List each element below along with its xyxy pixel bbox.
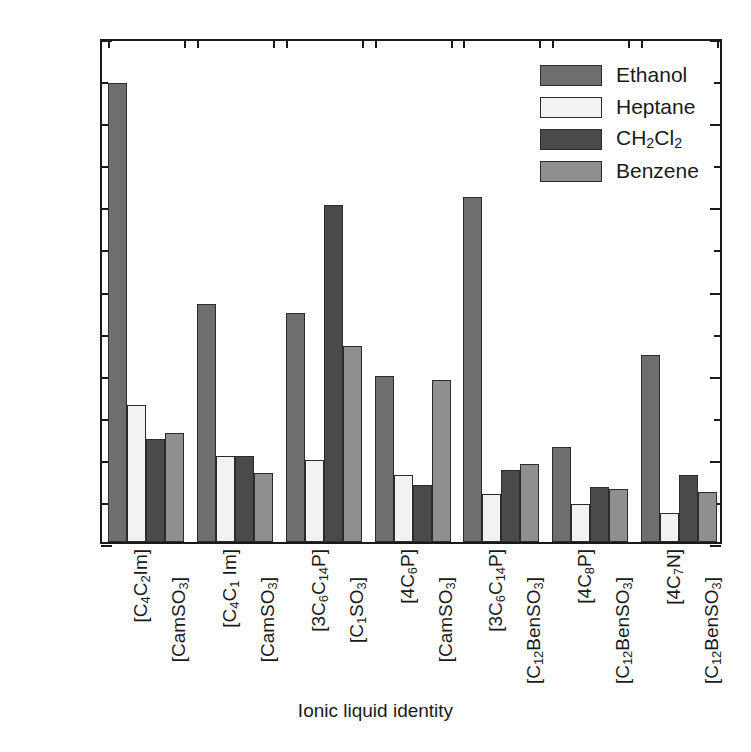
bar-chart-figure: 0.00.40.81.21.62.02.4 EthanolHeptaneCH2C… bbox=[0, 0, 751, 752]
bar bbox=[609, 489, 628, 542]
y-axis-tick-minor-right bbox=[714, 250, 721, 252]
bar bbox=[146, 439, 165, 542]
legend-label: Heptane bbox=[616, 95, 695, 119]
legend-swatch bbox=[540, 97, 602, 118]
y-axis-tick-minor bbox=[101, 250, 108, 252]
x-axis-tick-label: [C12BenSO3] bbox=[524, 577, 548, 684]
chart-legend: EthanolHeptaneCH2Cl2Benzene bbox=[540, 59, 720, 187]
legend-label: Benzene bbox=[616, 159, 699, 183]
bar bbox=[394, 475, 413, 542]
y-axis-tick-minor bbox=[101, 335, 108, 337]
y-axis-tick-minor bbox=[101, 82, 108, 84]
y-axis-tick-minor bbox=[101, 503, 108, 505]
plot-frame: 0.00.40.81.21.62.02.4 EthanolHeptaneCH2C… bbox=[100, 39, 722, 544]
legend-item: Benzene bbox=[540, 155, 720, 187]
y-axis-tick-minor bbox=[101, 166, 108, 168]
legend-swatch bbox=[540, 161, 602, 182]
y-axis-tick-minor bbox=[101, 419, 108, 421]
bar bbox=[679, 475, 698, 542]
x-axis-tick bbox=[108, 40, 110, 48]
x-axis-tick bbox=[286, 40, 288, 48]
bar bbox=[108, 83, 127, 542]
bar bbox=[235, 456, 254, 542]
x-axis-tick-label: [C4C1 Im] bbox=[220, 549, 244, 628]
bar bbox=[698, 492, 717, 543]
x-axis-tick bbox=[451, 40, 453, 48]
x-axis-tick bbox=[641, 40, 643, 48]
x-axis-tick-label: [C12BenSO3] bbox=[702, 577, 726, 684]
bar bbox=[127, 405, 146, 542]
bar bbox=[552, 447, 571, 542]
x-axis-tick-label: [C12BenSO3] bbox=[613, 577, 637, 684]
x-axis-tick-label: [4C6P] bbox=[398, 549, 422, 604]
legend-item: Heptane bbox=[540, 91, 720, 123]
x-axis-tick bbox=[628, 40, 630, 48]
bar bbox=[305, 460, 324, 542]
bar bbox=[571, 504, 590, 542]
y-axis-tick-major bbox=[101, 545, 112, 547]
bar bbox=[165, 433, 184, 542]
legend-swatch bbox=[540, 129, 602, 150]
x-axis-tick bbox=[375, 40, 377, 48]
x-axis-tick bbox=[539, 40, 541, 48]
legend-item: Ethanol bbox=[540, 59, 720, 91]
bar bbox=[254, 473, 273, 542]
legend-label: CH2Cl2 bbox=[616, 126, 682, 151]
bar bbox=[660, 513, 679, 542]
x-axis-tick bbox=[273, 40, 275, 48]
bar bbox=[375, 376, 394, 542]
bar bbox=[482, 494, 501, 542]
x-axis-tick-label: [CamSO3] bbox=[258, 577, 282, 662]
bar bbox=[501, 470, 520, 542]
x-axis-tick-label: [4C8P] bbox=[575, 549, 599, 604]
x-axis-tick bbox=[362, 40, 364, 48]
bar bbox=[343, 346, 362, 542]
y-axis-tick-minor-right bbox=[714, 419, 721, 421]
legend-item: CH2Cl2 bbox=[540, 123, 720, 155]
x-axis-tick bbox=[552, 40, 554, 48]
x-axis-tick bbox=[717, 40, 719, 48]
x-axis-tick-labels: [C4C2Im][CamSO3][C4C1 Im][CamSO3][3C6C14… bbox=[100, 549, 722, 694]
x-axis-tick-label: [C1SO3] bbox=[347, 577, 371, 643]
y-axis-tick-major-right bbox=[710, 40, 721, 42]
bar bbox=[463, 197, 482, 542]
x-axis-title: Ionic liquid identity bbox=[0, 700, 751, 722]
bar bbox=[590, 487, 609, 542]
y-axis-tick-minor-right bbox=[714, 335, 721, 337]
x-axis-tick-label: [CamSO3] bbox=[436, 577, 460, 662]
bar bbox=[641, 355, 660, 542]
x-axis-tick-label: [4C7N] bbox=[664, 549, 688, 605]
x-axis-tick-label: [3C6C14P] bbox=[486, 549, 510, 632]
legend-swatch bbox=[540, 65, 602, 86]
y-axis-tick-major-right bbox=[710, 377, 721, 379]
bar bbox=[520, 464, 539, 542]
bar bbox=[286, 313, 305, 542]
y-axis-tick-major-right bbox=[710, 293, 721, 295]
x-axis-tick-label: [CamSO3] bbox=[169, 577, 193, 662]
legend-label: Ethanol bbox=[616, 63, 687, 87]
x-axis-tick bbox=[463, 40, 465, 48]
bar bbox=[197, 304, 216, 542]
y-axis-tick-major-right bbox=[710, 545, 721, 547]
bar bbox=[413, 485, 432, 542]
bar bbox=[432, 380, 451, 542]
y-axis-tick-major-right bbox=[710, 208, 721, 210]
x-axis-tick-label: [3C6C14P] bbox=[309, 549, 333, 632]
bar bbox=[324, 205, 343, 542]
x-axis-tick bbox=[184, 40, 186, 48]
x-axis-tick-label: [C4C2Im] bbox=[131, 549, 155, 623]
y-axis-tick-major-right bbox=[710, 461, 721, 463]
y-axis-tick-major bbox=[101, 40, 112, 42]
bar bbox=[216, 456, 235, 542]
x-axis-tick bbox=[197, 40, 199, 48]
